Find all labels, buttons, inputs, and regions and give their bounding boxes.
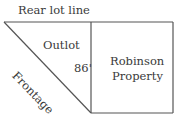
- dimension-label: 86': [74, 63, 92, 75]
- property-label-line1: Robinson: [110, 56, 164, 68]
- property-label-line2: Property: [112, 71, 163, 83]
- outlot-label: Outlot: [43, 40, 80, 52]
- rear-lot-line-label: Rear lot line: [18, 5, 90, 17]
